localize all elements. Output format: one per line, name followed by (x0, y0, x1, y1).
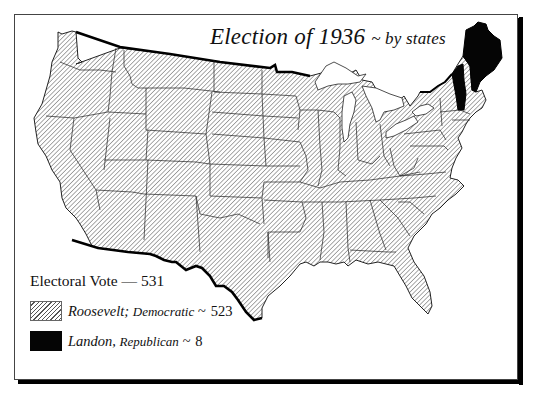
separator: ~ (182, 333, 190, 349)
legend-total-value: 531 (141, 272, 164, 289)
legend-entry-republican: Landon, Republican ~ 8 (30, 329, 232, 353)
solid-black-swatch-icon (30, 331, 62, 351)
candidate-name: Landon, (68, 333, 116, 349)
electoral-votes-republican: 8 (195, 333, 202, 350)
map-title: Election of 1936 ~ by states (210, 24, 446, 50)
party-name: Democratic (133, 304, 194, 319)
electoral-votes-democratic: 523 (211, 303, 233, 320)
legend-label-democratic: Roosevelt; Democratic ~ (68, 303, 206, 320)
legend: Electoral Vote — 531 Roosevelt; Democrat… (30, 272, 232, 359)
hatched-swatch-icon (30, 301, 62, 321)
legend-label-republican: Landon, Republican ~ (68, 333, 190, 350)
candidate-name: Roosevelt; (68, 303, 129, 319)
legend-total: Electoral Vote — 531 (30, 272, 232, 290)
map-title-main: Election of 1936 (210, 24, 365, 49)
legend-total-separator: — (122, 272, 138, 289)
party-name: Republican (120, 334, 179, 349)
separator: ~ (198, 303, 206, 319)
legend-entry-democratic: Roosevelt; Democratic ~ 523 (30, 299, 232, 323)
map-title-subtitle: ~ by states (371, 29, 446, 48)
legend-total-label: Electoral Vote (30, 272, 118, 289)
